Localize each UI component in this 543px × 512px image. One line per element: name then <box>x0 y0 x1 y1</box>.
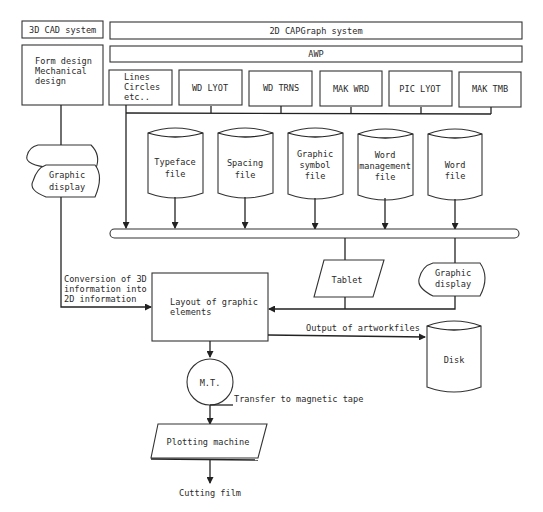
svg-text:display: display <box>49 182 85 192</box>
magnetic-tape: M.T. Transfer to magnetic tape <box>187 359 363 405</box>
input-to-layout <box>269 296 455 309</box>
svg-text:PIC LYOT: PIC LYOT <box>399 84 440 94</box>
svg-text:etc..: etc.. <box>124 92 150 102</box>
spacing-file: Spacing file <box>218 128 273 228</box>
svg-text:MAK TMB: MAK TMB <box>472 84 508 94</box>
svg-text:elements: elements <box>170 307 211 317</box>
flowchart-canvas: 3D CAD system 2D CAPGraph system Form de… <box>0 0 543 512</box>
svg-text:Mechanical: Mechanical <box>35 66 87 76</box>
right-graphic-display: Graphic display <box>419 238 485 296</box>
svg-text:Conversion of 3D: Conversion of 3D <box>64 274 147 284</box>
svg-text:M.T.: M.T. <box>200 378 221 388</box>
svg-text:Spacing: Spacing <box>227 158 263 168</box>
svg-text:2D information: 2D information <box>64 294 136 304</box>
svg-text:2D CAPGraph system: 2D CAPGraph system <box>269 26 362 36</box>
svg-text:Word: Word <box>375 150 396 160</box>
svg-text:display: display <box>435 279 471 289</box>
module-mak-tmb: MAK TMB <box>459 72 521 107</box>
svg-text:Layout of graphic: Layout of graphic <box>170 297 258 307</box>
graphic-symbol-file: Graphic symbol file <box>288 128 343 229</box>
svg-text:Tablet: Tablet <box>331 275 362 285</box>
svg-text:Form design: Form design <box>35 56 92 66</box>
awp-bar: AWP <box>110 46 522 62</box>
plotting-machine: Plotting machine <box>151 424 267 460</box>
svg-text:Graphic: Graphic <box>297 149 333 159</box>
svg-text:WD TRNS: WD TRNS <box>263 83 299 93</box>
word-management-file: Word management file <box>358 129 413 229</box>
svg-text:file: file <box>235 170 256 180</box>
layout-graphic-elements-box: Layout of graphic elements <box>152 273 268 341</box>
svg-text:MAK WRD: MAK WRD <box>333 84 369 94</box>
svg-text:Disk: Disk <box>444 355 466 365</box>
svg-text:Plotting machine: Plotting machine <box>167 437 250 447</box>
data-bus <box>110 229 519 238</box>
svg-text:WD LYOT: WD LYOT <box>192 83 228 93</box>
tablet-input: Tablet <box>314 238 384 297</box>
svg-text:Graphic: Graphic <box>435 268 471 278</box>
module-mak-wrd: MAK WRD <box>320 71 382 106</box>
svg-text:file: file <box>375 172 396 182</box>
svg-text:symbol: symbol <box>299 160 330 170</box>
left-graphic-display: Graphic display <box>27 145 100 197</box>
svg-text:Circles: Circles <box>124 82 160 92</box>
cad-system-header: 3D CAD system <box>22 21 103 38</box>
capgraph-system-header: 2D CAPGraph system <box>110 22 522 39</box>
svg-text:file: file <box>305 171 326 181</box>
svg-text:Output of artworkfiles: Output of artworkfiles <box>306 323 420 333</box>
module-wd-lyot: WD LYOT <box>179 70 242 105</box>
module-wd-trns: WD TRNS <box>249 71 312 106</box>
module-pic-lyot: PIC LYOT <box>389 71 452 106</box>
word-file: Word file <box>428 129 482 229</box>
form-design-box: Form design Mechanical design <box>22 45 103 105</box>
cutting-film-label: Cutting film <box>179 488 241 498</box>
svg-text:Word: Word <box>445 160 466 170</box>
svg-text:Lines: Lines <box>124 72 150 82</box>
disk: Disk <box>427 321 481 392</box>
svg-text:Transfer to magnetic tape: Transfer to magnetic tape <box>234 394 363 404</box>
svg-text:management: management <box>359 161 411 171</box>
svg-text:file: file <box>445 171 466 181</box>
svg-text:Typeface: Typeface <box>154 157 195 167</box>
module-lines-circles: Lines Circles etc.. <box>109 70 172 105</box>
svg-text:Graphic: Graphic <box>49 170 85 180</box>
svg-text:design: design <box>35 76 66 86</box>
svg-text:information into: information into <box>64 284 147 294</box>
svg-text:3D CAD system: 3D CAD system <box>29 25 96 35</box>
typeface-file: Typeface file <box>148 128 203 228</box>
svg-text:AWP: AWP <box>308 49 324 59</box>
output-to-disk: Output of artworkfiles <box>268 323 425 337</box>
conversion-path: Conversion of 3D information into 2D inf… <box>61 105 151 307</box>
svg-text:file: file <box>165 169 186 179</box>
